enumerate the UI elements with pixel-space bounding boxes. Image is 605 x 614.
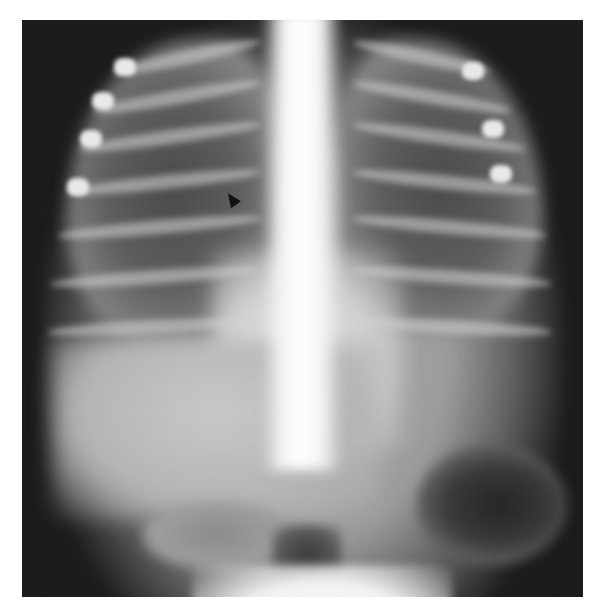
stomach-gas-bubble <box>417 445 567 565</box>
radiograph-frame <box>22 20 583 597</box>
rib-end <box>92 92 114 110</box>
rib-end <box>80 130 102 148</box>
rib-end <box>490 165 512 183</box>
mediastinum-spine <box>262 20 342 470</box>
rib-end <box>482 120 504 138</box>
rib-end <box>462 62 484 80</box>
rib-end <box>114 58 136 76</box>
lower-soft-tissue <box>192 565 452 597</box>
bowel-loop <box>142 500 292 570</box>
rib-end <box>67 178 89 196</box>
